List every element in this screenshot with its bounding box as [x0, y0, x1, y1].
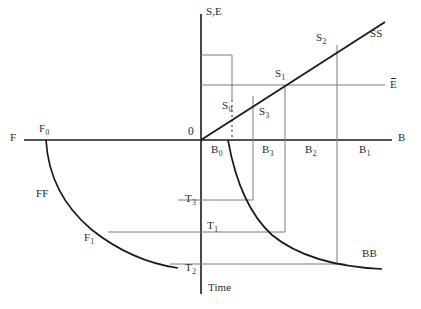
point-label-s1: S1 — [275, 68, 285, 79]
axis-label-horizontal-right: B — [398, 132, 405, 143]
e-bar-text: E — [390, 78, 397, 90]
point-label-t1: T1 — [207, 220, 218, 231]
ss-curve-label: SS — [370, 28, 382, 39]
point-label-b3: B3 — [262, 144, 273, 155]
point-label-b2: B2 — [305, 144, 316, 155]
point-label-b1: B1 — [359, 144, 370, 155]
point-label-f0: F0 — [39, 123, 49, 134]
point-label-f1: F1 — [84, 232, 94, 243]
point-label-t2: T2 — [185, 262, 196, 273]
bb-curve-label: BB — [362, 248, 377, 259]
axis-label-vertical-up: S,E — [206, 6, 222, 17]
ff-curve — [46, 140, 178, 268]
axis-label-horizontal-left: F — [10, 132, 16, 143]
economics-four-quadrant-diagram: S,E B F Time 0 SS FF BB E S0 S1 S2 S3 B0… — [0, 0, 421, 309]
point-label-s2: S2 — [316, 32, 326, 43]
point-label-s0: S0 — [222, 100, 232, 111]
ff-curve-label: FF — [36, 188, 48, 199]
e-bar-label: E — [390, 78, 397, 90]
point-label-s3: S3 — [259, 106, 269, 117]
point-label-t3: T3 — [185, 193, 196, 204]
point-label-b0: B0 — [211, 144, 222, 155]
origin-label: 0 — [188, 126, 194, 138]
bb-curve — [228, 140, 382, 269]
axis-label-vertical-down: Time — [208, 282, 231, 293]
ss-line — [201, 22, 385, 140]
